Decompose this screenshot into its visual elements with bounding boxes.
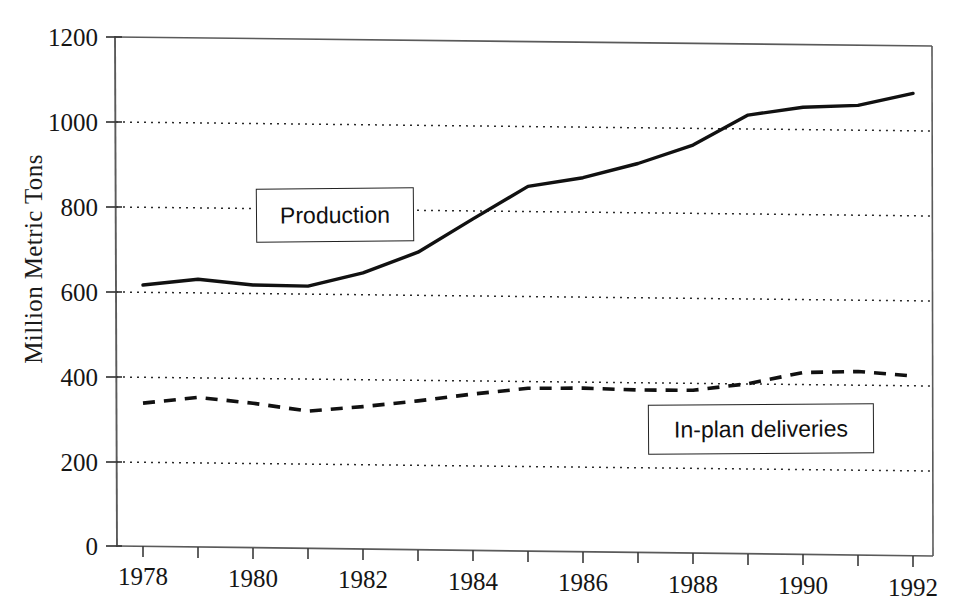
x-tick-label-1986: 1986 [553,569,613,597]
y-tick-label-1200: 1200 [30,24,98,52]
series-lines [143,93,913,411]
x-tick-label-1990: 1990 [773,572,833,600]
x-tick-label-1982: 1982 [333,566,393,594]
x-axis-ticks [143,546,913,567]
y-tick-label-1000: 1000 [30,109,98,137]
x-tick-label-1980: 1980 [223,565,283,593]
chart-figure: Million Metric Tons [0,0,957,606]
x-tick-label-1992: 1992 [883,574,943,602]
y-tick-label-800: 800 [30,194,98,222]
y-tick-label-600: 600 [30,279,98,307]
chart-plot-area [0,0,957,606]
y-tick-label-200: 200 [30,449,98,477]
y-tick-label-400: 400 [30,364,98,392]
y-tick-label-0: 0 [30,533,98,561]
series-callout-in-plan-deliveries: In-plan deliveries [648,403,874,455]
plot-frame [115,36,933,556]
y-axis-ticks [106,37,122,546]
series-callout-production: Production [256,187,414,242]
x-tick-label-1978: 1978 [113,563,173,591]
x-tick-label-1984: 1984 [443,568,503,596]
x-tick-label-1988: 1988 [663,571,723,599]
